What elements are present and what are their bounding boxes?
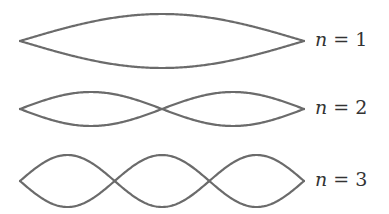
- mode-2-label-value: = 2: [327, 96, 367, 118]
- mode-2-label: n = 2: [315, 98, 367, 117]
- mode-1-upper-curve: [20, 14, 304, 41]
- mode-3-label-variable: n: [315, 168, 327, 190]
- mode-2-label-variable: n: [315, 96, 327, 118]
- mode-1-lower-curve: [20, 41, 304, 68]
- mode-1-label: n = 1: [315, 30, 367, 49]
- mode-3-upper-curve: [20, 155, 304, 207]
- mode-3-lower-curve: [20, 155, 304, 207]
- mode-1-label-variable: n: [315, 28, 327, 50]
- mode-1-label-value: = 1: [327, 28, 367, 50]
- mode-2-lower-curve: [20, 92, 304, 126]
- mode-3-label-value: = 3: [327, 168, 367, 190]
- mode-3-label: n = 3: [315, 170, 367, 189]
